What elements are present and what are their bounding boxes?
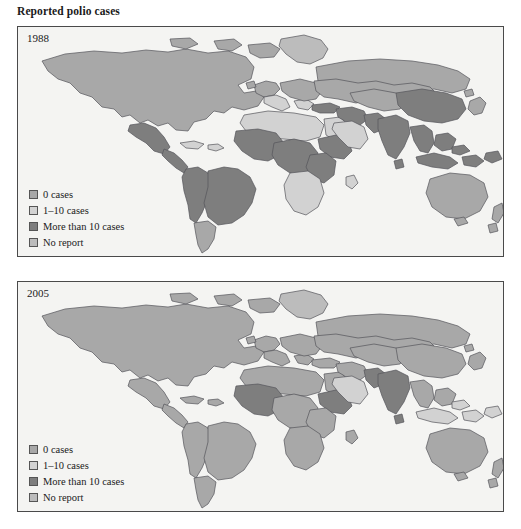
map-region xyxy=(204,167,256,225)
map-region xyxy=(284,171,324,215)
map-panel-2005: 2005 0 cases 1–10 cases More than 10 cas… xyxy=(17,281,504,512)
legend-label: More than 10 cases xyxy=(43,221,124,232)
map-region xyxy=(396,344,466,378)
map-region xyxy=(394,414,404,424)
map-region xyxy=(180,141,204,149)
legend-2005: 0 cases 1–10 cases More than 10 cases No… xyxy=(29,441,124,505)
map-region xyxy=(214,39,242,51)
swatch-0-cases xyxy=(29,190,38,199)
map-region xyxy=(194,221,216,253)
map-region xyxy=(396,89,466,123)
map-region xyxy=(194,476,216,508)
map-region xyxy=(416,408,458,424)
legend-row: 0 cases xyxy=(29,441,124,457)
map-region xyxy=(346,175,358,189)
panel-year-label-2005: 2005 xyxy=(27,287,49,299)
legend-label: 0 cases xyxy=(43,444,73,455)
map-region xyxy=(170,293,198,304)
map-region xyxy=(416,153,458,169)
legend-label: No report xyxy=(43,492,84,503)
legend-row: More than 10 cases xyxy=(29,473,124,489)
map-region xyxy=(248,298,280,313)
map-region xyxy=(162,404,188,428)
map-region xyxy=(464,344,474,352)
map-region xyxy=(208,399,224,406)
legend-row: 1–10 cases xyxy=(29,457,124,473)
swatch-1-10-cases xyxy=(29,461,38,470)
legend-label: More than 10 cases xyxy=(43,476,124,487)
legend-row: 0 cases xyxy=(29,186,124,202)
map-region xyxy=(468,97,486,115)
swatch-more-than-10-cases xyxy=(29,477,38,486)
map-region xyxy=(462,155,484,167)
map-region xyxy=(488,478,498,488)
map-region xyxy=(42,304,264,386)
map-region xyxy=(214,294,242,306)
swatch-no-report xyxy=(29,238,38,247)
map-region xyxy=(394,159,404,169)
map-region xyxy=(208,144,224,151)
map-region xyxy=(410,125,434,153)
map-region xyxy=(248,43,280,58)
polio-cases-figure: Reported polio cases 1988 0 cases 1–10 c… xyxy=(0,0,521,529)
map-region xyxy=(484,151,502,163)
map-region xyxy=(484,406,502,418)
legend-label: 1–10 cases xyxy=(43,460,89,471)
map-region xyxy=(279,35,328,64)
legend-row: 1–10 cases xyxy=(29,202,124,218)
legend-label: 0 cases xyxy=(43,189,73,200)
map-region xyxy=(42,49,264,131)
legend-label: 1–10 cases xyxy=(43,205,89,216)
map-region xyxy=(284,426,324,470)
map-region xyxy=(492,458,503,478)
legend-row: No report xyxy=(29,489,124,505)
swatch-no-report xyxy=(29,493,38,502)
swatch-more-than-10-cases xyxy=(29,222,38,231)
map-region xyxy=(264,95,290,111)
map-region xyxy=(346,430,358,444)
map-region xyxy=(468,352,486,370)
map-region xyxy=(426,173,488,219)
map-region xyxy=(462,410,484,422)
map-region xyxy=(264,350,290,366)
map-region xyxy=(452,400,470,410)
map-region xyxy=(312,358,340,368)
map-region xyxy=(170,38,198,49)
legend-1988: 0 cases 1–10 cases More than 10 cases No… xyxy=(29,186,124,250)
map-region xyxy=(452,145,470,155)
map-region xyxy=(492,203,503,223)
map-region xyxy=(410,380,434,408)
legend-row: No report xyxy=(29,234,124,250)
map-region xyxy=(464,89,474,97)
map-region xyxy=(378,370,410,414)
map-region xyxy=(378,115,410,159)
legend-row: More than 10 cases xyxy=(29,218,124,234)
map-region xyxy=(279,290,328,319)
map-region xyxy=(162,149,188,173)
panel-year-label-1988: 1988 xyxy=(27,32,49,44)
legend-label: No report xyxy=(43,237,84,248)
swatch-1-10-cases xyxy=(29,206,38,215)
map-panel-1988: 1988 0 cases 1–10 cases More than 10 cas… xyxy=(17,26,504,257)
map-region xyxy=(488,223,498,233)
map-region xyxy=(180,396,204,404)
page-title: Reported polio cases xyxy=(17,5,120,17)
map-region xyxy=(204,422,256,480)
map-region xyxy=(426,428,488,474)
swatch-0-cases xyxy=(29,445,38,454)
map-region xyxy=(312,103,340,113)
